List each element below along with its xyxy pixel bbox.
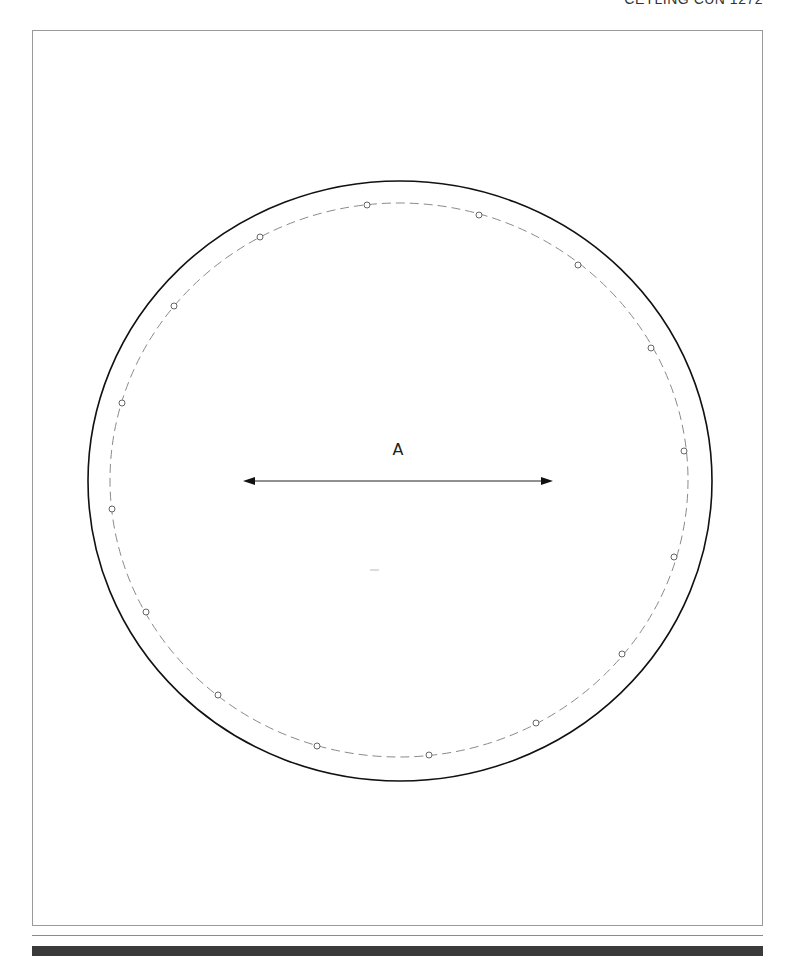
- hole-marker: [314, 743, 320, 749]
- hole-marker: [619, 651, 625, 657]
- hole-marker: [143, 609, 149, 615]
- circle-diagram: A: [0, 0, 795, 956]
- hole-marker: [575, 262, 581, 268]
- hole-markers: [109, 202, 687, 758]
- hole-marker: [648, 345, 654, 351]
- bolt-circle: [110, 203, 688, 757]
- dimension-arrow: [243, 477, 553, 485]
- arrow-left-icon: [243, 477, 255, 485]
- hole-marker: [671, 554, 677, 560]
- hole-marker: [171, 303, 177, 309]
- arrow-right-icon: [541, 477, 553, 485]
- hole-marker: [426, 752, 432, 758]
- footer-rule-thick: [32, 946, 763, 956]
- hole-marker: [681, 448, 687, 454]
- hole-marker: [215, 692, 221, 698]
- dimension-label: A: [393, 440, 404, 459]
- hole-marker: [109, 506, 115, 512]
- hole-marker: [364, 202, 370, 208]
- hole-marker: [119, 400, 125, 406]
- hole-marker: [257, 234, 263, 240]
- hole-marker: [476, 212, 482, 218]
- hole-marker: [533, 720, 539, 726]
- center-mark: [370, 569, 379, 571]
- footer-rule-thin: [32, 935, 763, 936]
